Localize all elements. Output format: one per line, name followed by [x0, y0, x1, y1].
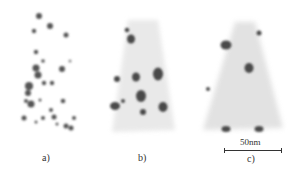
panel-c: 50nm c): [195, 0, 299, 173]
panel-c-particle-map: [195, 0, 299, 173]
panel-label-b: b): [138, 152, 146, 163]
panel-b: b): [100, 0, 200, 173]
panel-a: a): [0, 0, 100, 173]
panel-label-a: a): [42, 152, 50, 163]
panel-a-particle-map: [0, 0, 100, 173]
scale-bar-label: 50nm: [240, 137, 261, 147]
panel-label-c: c): [247, 153, 255, 164]
panel-b-particle-map: [100, 0, 200, 173]
scale-bar: [224, 150, 282, 151]
